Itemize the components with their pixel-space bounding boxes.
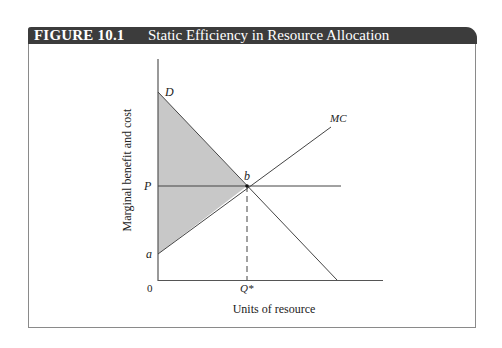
- x-axis-title: Units of resource: [233, 302, 316, 316]
- label-D: D: [164, 85, 174, 99]
- y-axis-title: Marginal benefit and cost: [120, 108, 134, 231]
- label-a: a: [146, 247, 152, 261]
- equilibrium-point-b: [245, 184, 249, 188]
- label-qstar: Q*: [240, 282, 254, 294]
- label-zero: 0: [147, 282, 153, 294]
- label-b: b: [244, 169, 250, 183]
- label-MC: MC: [329, 112, 347, 124]
- label-P: P: [143, 179, 152, 193]
- shaded-surplus-area: [158, 92, 247, 254]
- chart-plot: D MC b P a 0 Q* Units of resource Margin…: [0, 0, 502, 348]
